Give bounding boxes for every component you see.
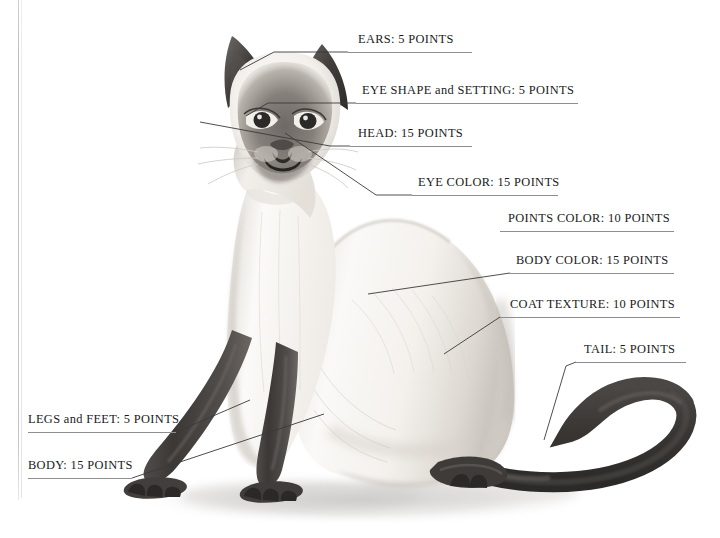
label-body-color: BODY COLOR: 15 POINTS — [516, 253, 669, 268]
label-body: BODY: 15 POINTS — [28, 458, 133, 473]
page-canvas: EARS: 5 POINTSEYE SHAPE and SETTING: 5 P… — [0, 0, 720, 538]
label-rule-body — [28, 478, 132, 479]
label-text-ears: EARS: 5 POINTS — [358, 32, 454, 47]
leader-line-body-color — [368, 273, 510, 294]
label-text-tail: TAIL: 5 POINTS — [584, 342, 675, 357]
label-rule-eye-color — [412, 195, 558, 196]
label-text-body: BODY: 15 POINTS — [28, 458, 133, 473]
label-ears: EARS: 5 POINTS — [358, 32, 454, 47]
leader-line-legs-and-feet — [176, 400, 250, 432]
label-text-points-color: POINTS COLOR: 10 POINTS — [508, 211, 670, 226]
label-legs-and-feet: LEGS and FEET: 5 POINTS — [28, 412, 179, 427]
label-eye-color: EYE COLOR: 15 POINTS — [418, 175, 560, 190]
label-rule-coat-texture — [500, 317, 680, 318]
leader-line-head — [200, 122, 350, 146]
label-eye-shape-and-setting: EYE SHAPE and SETTING: 5 POINTS — [362, 83, 574, 98]
label-rule-eye-shape-and-setting — [356, 103, 578, 104]
label-points-color: POINTS COLOR: 10 POINTS — [508, 211, 670, 226]
leader-line-eye-color — [285, 133, 412, 195]
label-tail: TAIL: 5 POINTS — [584, 342, 675, 357]
label-text-head: HEAD: 15 POINTS — [358, 126, 463, 141]
label-text-body-color: BODY COLOR: 15 POINTS — [516, 253, 669, 268]
label-rule-head — [350, 146, 472, 147]
label-rule-points-color — [500, 231, 674, 232]
leader-line-tail — [544, 362, 576, 440]
label-text-eye-color: EYE COLOR: 15 POINTS — [418, 175, 560, 190]
label-rule-tail — [576, 362, 686, 363]
leader-line-ears — [240, 52, 348, 70]
label-text-legs-and-feet: LEGS and FEET: 5 POINTS — [28, 412, 179, 427]
label-rule-ears — [348, 52, 472, 53]
label-head: HEAD: 15 POINTS — [358, 126, 463, 141]
label-text-coat-texture: COAT TEXTURE: 10 POINTS — [510, 297, 675, 312]
leader-line-coat-texture — [444, 317, 500, 354]
label-rule-legs-and-feet — [28, 432, 176, 433]
label-coat-texture: COAT TEXTURE: 10 POINTS — [510, 297, 675, 312]
label-text-eye-shape-and-setting: EYE SHAPE and SETTING: 5 POINTS — [362, 83, 574, 98]
leader-line-eye-shape-and-setting — [246, 103, 356, 116]
label-rule-body-color — [510, 273, 674, 274]
